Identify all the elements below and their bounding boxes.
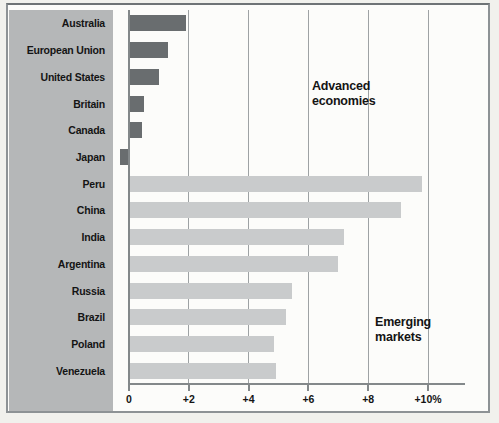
label-india: India — [9, 230, 105, 244]
label-poland: Poland — [9, 337, 105, 351]
label-britain: Britain — [9, 97, 105, 111]
x-axis-tick-label-0: 0 — [107, 393, 151, 405]
gridline-+8 — [368, 10, 369, 384]
x-axis-tick-label-6: +6 — [286, 393, 330, 405]
label-japan: Japan — [9, 150, 105, 164]
bar-britain — [129, 96, 144, 112]
annotation-emerging: Emergingmarkets — [375, 315, 431, 345]
label-australia: Australia — [9, 16, 105, 30]
label-venezuela: Venezuela — [9, 364, 105, 378]
bar-brazil — [129, 309, 286, 325]
x-axis-tick-0 — [128, 385, 130, 391]
annotation-advanced: Advancedeconomies — [312, 79, 376, 109]
x-axis-line — [128, 383, 465, 385]
bar-india — [129, 229, 344, 245]
gridline-+2 — [188, 10, 189, 384]
x-axis-tick-label-10: +10% — [406, 393, 450, 405]
annotation-line: markets — [375, 330, 431, 345]
label-russia: Russia — [9, 284, 105, 298]
label-peru: Peru — [9, 177, 105, 191]
x-axis-tick-label-2: +2 — [167, 393, 211, 405]
label-china: China — [9, 203, 105, 217]
bar-united-states — [129, 69, 159, 85]
bar-venezuela — [129, 363, 276, 379]
x-axis-tick-6 — [307, 385, 309, 391]
annotation-line: economies — [312, 94, 376, 109]
x-axis-tick-label-4: +4 — [227, 393, 271, 405]
bar-australia — [129, 15, 186, 31]
x-axis-tick-2 — [188, 385, 190, 391]
bar-canada — [129, 122, 142, 138]
x-axis-tick-10 — [427, 385, 429, 391]
bar-china — [129, 202, 401, 218]
gridline-+4 — [248, 10, 249, 384]
x-axis-tick-8 — [367, 385, 369, 391]
gridline-+6 — [308, 10, 309, 384]
y-axis-line — [128, 10, 130, 384]
bar-russia — [129, 283, 292, 299]
label-european-union: European Union — [9, 43, 105, 57]
x-axis-tick-4 — [248, 385, 250, 391]
annotation-line: Advanced — [312, 79, 376, 94]
label-united-states: United States — [9, 70, 105, 84]
bar-european-union — [129, 42, 168, 58]
label-canada: Canada — [9, 123, 105, 137]
label-argentina: Argentina — [9, 257, 105, 271]
bar-argentina — [129, 256, 338, 272]
bar-poland — [129, 336, 274, 352]
bar-chart-figure: AustraliaEuropean UnionUnited StatesBrit… — [0, 0, 499, 423]
label-brazil: Brazil — [9, 310, 105, 324]
bar-peru — [129, 176, 422, 192]
annotation-line: Emerging — [375, 315, 431, 330]
x-axis-tick-label-8: +8 — [346, 393, 390, 405]
